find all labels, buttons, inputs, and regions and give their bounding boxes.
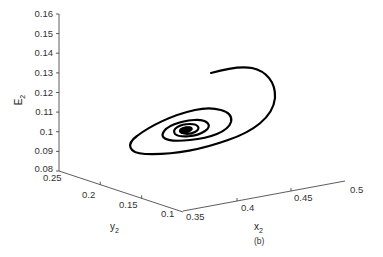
y-tick: 0.25	[43, 172, 62, 183]
z-tick: 0.13	[35, 67, 54, 78]
trajectory-curve	[130, 67, 275, 154]
svg-text:E2: E2	[13, 95, 26, 106]
z-tick: 0.15	[35, 28, 54, 39]
x-tick-labels: 0.35 0.4 0.45 0.5	[186, 184, 363, 222]
z-tick-labels: 0.16 0.15 0.14 0.13 0.12 0.11 0.1 0.09 0…	[35, 8, 54, 174]
z-tick: 0.1	[40, 126, 53, 137]
x-axis-label: x2	[254, 221, 263, 234]
z-tick: 0.14	[35, 47, 54, 58]
3d-phase-plot: 0.16 0.15 0.14 0.13 0.12 0.11 0.1 0.09 0…	[0, 0, 383, 257]
x-tick: 0.5	[350, 184, 363, 195]
x-axis	[183, 181, 345, 211]
y-axis-label: y2	[110, 221, 119, 234]
x-tick: 0.35	[186, 211, 205, 222]
z-tick: 0.12	[35, 87, 54, 98]
x-tick: 0.45	[294, 192, 313, 203]
z-axis	[56, 14, 59, 171]
z-tick: 0.16	[35, 8, 54, 19]
figure-caption: (b)	[254, 236, 265, 246]
x-tick: 0.4	[241, 202, 254, 213]
z-tick: 0.11	[35, 106, 53, 117]
z-axis-label: E2	[13, 95, 26, 106]
z-tick: 0.09	[35, 145, 54, 156]
y-tick: 0.1	[161, 208, 174, 219]
y-tick: 0.2	[82, 189, 95, 200]
y-tick-labels: 0.25 0.2 0.15 0.1	[43, 172, 174, 219]
y-tick: 0.15	[119, 199, 138, 210]
